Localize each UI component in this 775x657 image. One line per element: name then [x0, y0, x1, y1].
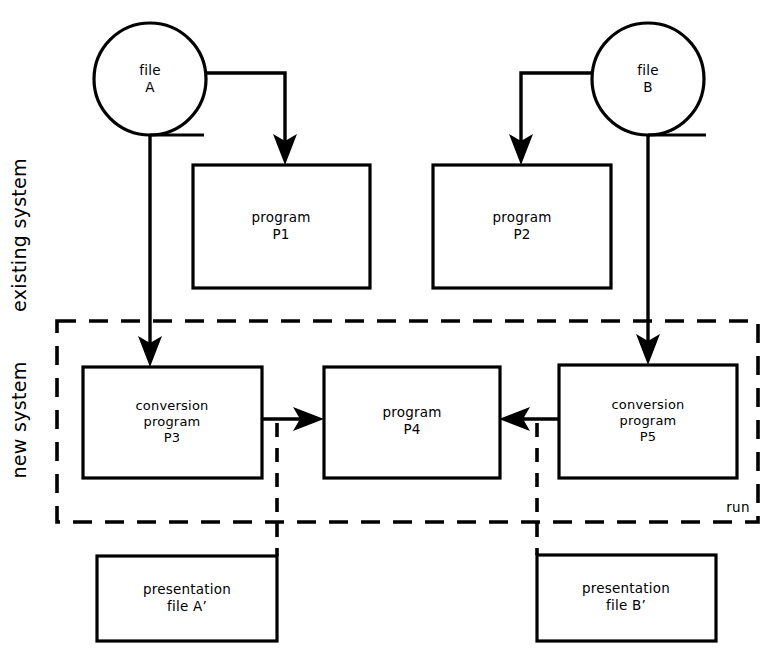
side-label-new-system-text: new system	[8, 362, 30, 479]
node-conversion-program-p5[interactable]: conversion program P5	[559, 365, 737, 478]
system-conversion-diagram: existing system new system run	[0, 0, 775, 657]
node-file-b[interactable]: file B	[592, 23, 706, 135]
run-boundary-label: run	[726, 499, 750, 515]
edge-file-b-to-p5	[636, 136, 660, 365]
conversion-program-p5-label-line2: program	[620, 413, 677, 428]
program-p4-label-line2: P4	[403, 421, 420, 437]
conversion-program-p5-label-line3: P5	[640, 429, 657, 444]
edge-file-a-to-p3	[138, 136, 162, 367]
node-conversion-program-p3[interactable]: conversion program P3	[83, 367, 262, 478]
node-presentation-file-b[interactable]: presentation file B’	[537, 555, 716, 641]
program-p2-label-line2: P2	[513, 226, 530, 242]
edge-p3-to-p4	[262, 407, 324, 431]
program-p1-label-line2: P1	[272, 226, 289, 242]
conversion-program-p3-label-line2: program	[144, 414, 201, 429]
presentation-file-b-label-line1: presentation	[582, 580, 670, 596]
conversion-program-p3-label-line1: conversion	[136, 398, 209, 413]
side-label-existing-system-text: existing system	[8, 158, 30, 312]
file-b-label-line1: file	[637, 62, 658, 78]
presentation-file-b-label-line2: file B’	[606, 597, 646, 613]
program-p2-label-line1: program	[492, 209, 551, 225]
edge-file-a-to-p1	[203, 73, 297, 165]
node-presentation-file-a[interactable]: presentation file A’	[97, 556, 277, 641]
presentation-file-a-label-line2: file A’	[167, 598, 207, 614]
conversion-program-p3-label-line3: P3	[164, 430, 181, 445]
node-program-p2[interactable]: program P2	[433, 165, 611, 288]
presentation-file-a-label-line1: presentation	[143, 581, 231, 597]
node-program-p1[interactable]: program P1	[193, 165, 370, 288]
program-p4-label-line1: program	[382, 404, 441, 420]
file-b-label-line2: B	[643, 79, 652, 95]
node-program-p4[interactable]: program P4	[324, 367, 500, 478]
node-file-a[interactable]: file A	[94, 23, 206, 135]
program-p1-label-line1: program	[251, 209, 310, 225]
diagram-canvas: existing system new system run	[0, 0, 775, 657]
edge-file-b-to-p2	[509, 73, 595, 165]
file-a-label-line1: file	[139, 62, 160, 78]
file-a-label-line2: A	[145, 79, 155, 95]
conversion-program-p5-label-line1: conversion	[612, 397, 685, 412]
side-label-new-system: new system	[8, 362, 30, 479]
edge-p5-to-p4	[499, 407, 559, 431]
side-label-existing-system: existing system	[8, 158, 30, 312]
